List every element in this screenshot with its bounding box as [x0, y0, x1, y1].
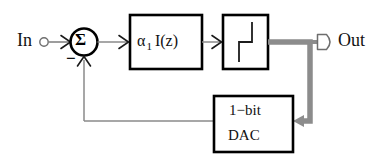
dac-label-line2: DAC [228, 128, 260, 143]
negative-input-sign: − [66, 50, 76, 67]
integrator-block-label: α1I(z) [137, 33, 178, 52]
integrator-subscript: 1 [145, 40, 155, 52]
input-label: In [17, 31, 32, 49]
input-terminal-circle [40, 38, 48, 46]
output-terminal-pennant [318, 35, 331, 50]
integrator-transfer-function: I(z) [155, 32, 178, 49]
diagram-svg [0, 0, 381, 157]
summing-junction-symbol: Σ [75, 31, 86, 48]
output-label: Out [338, 31, 365, 49]
dac-label-line1: 1−bit [229, 103, 261, 118]
dac-input-arrowhead [293, 115, 304, 127]
block-diagram-canvas: In Σ − α1I(z) Out 1−bit DAC [0, 0, 381, 157]
